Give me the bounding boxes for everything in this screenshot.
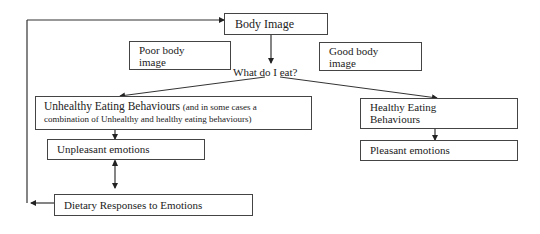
pleasant-emotions-label: Pleasant emotions — [370, 144, 450, 156]
poor-body-image-label-line2: image — [139, 56, 230, 68]
dietary-responses-node: Dietary Responses to Emotions — [54, 194, 253, 216]
pleasant-emotions-node: Pleasant emotions — [360, 140, 518, 161]
poor-body-image-label-line1: Poor body — [139, 44, 230, 56]
good-body-image-label-line2: image — [329, 57, 421, 69]
healthy-eating-label-line1: Healthy Eating — [370, 101, 517, 113]
poor-body-image-node: Poor body image — [129, 41, 231, 70]
body-image-label: Body Image — [235, 17, 294, 31]
healthy-eating-node: Healthy Eating Behaviours — [360, 98, 518, 129]
unhealthy-eating-node: Unhealthy Eating Behaviours (and in some… — [35, 96, 312, 130]
body-image-node: Body Image — [224, 13, 328, 35]
unhealthy-eating-title: Unhealthy Eating Behaviours — [44, 100, 180, 112]
unhealthy-eating-note-line1: (and in some cases a — [183, 102, 257, 112]
unpleasant-emotions-label: Unpleasant emotions — [57, 143, 150, 155]
unhealthy-eating-note-line2: combination of Unhealthy and healthy eat… — [44, 113, 311, 125]
good-body-image-label-line1: Good body — [329, 45, 421, 57]
healthy-eating-label-line2: Behaviours — [370, 113, 517, 125]
unpleasant-emotions-node: Unpleasant emotions — [47, 139, 205, 160]
dietary-responses-label: Dietary Responses to Emotions — [64, 199, 202, 211]
good-body-image-node: Good body image — [319, 42, 422, 71]
decision-label: What do I eat? — [233, 66, 297, 78]
